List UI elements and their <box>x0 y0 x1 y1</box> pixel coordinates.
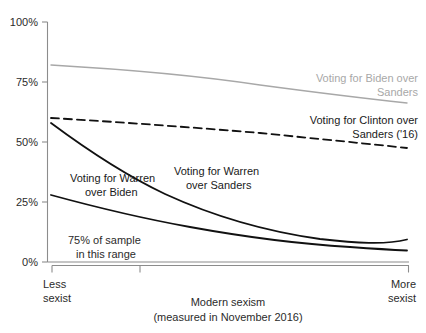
series-label-warren-over-sanders: Voting for Warren over Sanders <box>174 165 259 191</box>
x-axis-end-label-line2: sexist <box>388 292 416 304</box>
y-tick-label-100: 100% <box>10 16 38 28</box>
series-label-biden-line1: Voting for Biden over <box>316 72 418 84</box>
x-axis-start-label-line2: sexist <box>43 292 71 304</box>
y-tick-label-0: 0% <box>22 256 38 268</box>
series-label-warren-over-biden: Voting for Warren over Biden <box>70 172 155 198</box>
x-axis-start-label-line1: Less <box>43 278 67 290</box>
series-label-warren-sanders-line2: over Sanders <box>186 179 252 191</box>
sample-range-annotation-line1: 75% of sample <box>68 234 141 246</box>
x-axis-start-label: Less sexist <box>43 278 71 304</box>
x-axis-caption-line1: Modern sexism <box>191 296 266 308</box>
series-label-biden-line2: Sanders <box>377 86 418 98</box>
series-label-clinton-line1: Voting for Clinton over <box>310 114 419 126</box>
sample-range-annotation-line2: in this range <box>76 248 136 260</box>
series-line-biden-over-sanders <box>51 65 407 103</box>
x-axis-end-label: More sexist <box>388 278 416 304</box>
y-axis-tick-labels: 100% 75% 50% 25% 0% <box>10 16 38 268</box>
y-tick-label-75: 75% <box>16 76 38 88</box>
y-tick-label-25: 25% <box>16 196 38 208</box>
y-tick-label-50: 50% <box>16 136 38 148</box>
x-axis-end-label-line1: More <box>391 278 416 290</box>
sexism-vote-line-chart: 100% 75% 50% 25% 0% Voting for Biden ove… <box>0 0 426 333</box>
series-label-clinton-over-sanders: Voting for Clinton over Sanders ('16) <box>310 114 419 140</box>
y-axis-ticks <box>42 22 48 262</box>
x-axis-caption: Modern sexism (measured in November 2016… <box>153 296 302 323</box>
chart-container: 100% 75% 50% 25% 0% Voting for Biden ove… <box>0 0 426 333</box>
sample-range-bracket <box>52 266 409 273</box>
series-label-warren-biden-line2: over Biden <box>85 186 138 198</box>
series-label-clinton-line2: Sanders ('16) <box>352 128 418 140</box>
series-label-warren-biden-line1: Voting for Warren <box>70 172 155 184</box>
sample-range-annotation: 75% of sample in this range <box>68 234 141 260</box>
series-label-warren-sanders-line1: Voting for Warren <box>174 165 259 177</box>
x-axis-caption-line2: (measured in November 2016) <box>153 311 302 323</box>
